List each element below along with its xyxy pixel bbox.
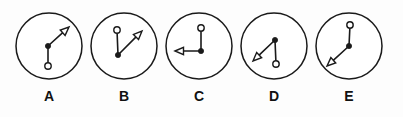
endpoint-open-circle-c [198, 25, 204, 31]
panel-a [16, 13, 82, 79]
panel-label-d: D [262, 88, 286, 104]
panel-label-c: C [187, 88, 211, 104]
panel-outline-circle-b [91, 13, 157, 79]
panel-outline-circle-c [166, 13, 232, 79]
panels-group [16, 13, 382, 79]
panel-e [316, 13, 382, 79]
panel-outline-circle-d [241, 13, 307, 79]
vertex-dot-b [115, 52, 120, 57]
panel-label-b: B [112, 88, 136, 104]
panel-c [166, 13, 232, 79]
tail-segment-b [117, 34, 118, 55]
panel-b [91, 13, 157, 79]
panel-label-e: E [337, 88, 361, 104]
endpoint-open-circle-d [273, 61, 279, 67]
vector-diagram-figure: ABCDE [0, 0, 403, 117]
endpoint-open-circle-a [45, 63, 51, 69]
vertex-dot-d [272, 37, 277, 42]
panel-d [241, 13, 307, 79]
vertex-dot-e [346, 43, 351, 48]
vertex-dot-a [45, 43, 50, 48]
panel-label-a: A [37, 88, 61, 104]
endpoint-open-circle-e [347, 22, 353, 28]
vertex-dot-c [198, 48, 203, 53]
tail-segment-d [275, 40, 276, 60]
endpoint-open-circle-b [114, 27, 120, 33]
